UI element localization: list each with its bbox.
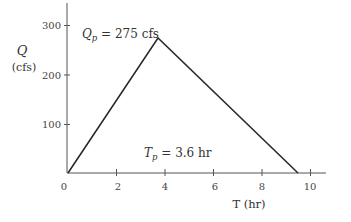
y-tick-label: 200: [42, 70, 61, 81]
y-tick-label: 100: [42, 119, 61, 130]
time-to-peak-annotation: Tp = 3.6 hr: [144, 146, 212, 162]
hydrograph-chart: 100 200 300 0 2 4 6 8 10 Q (cfs) T (hr) …: [0, 0, 351, 222]
x-ticks: 0 2 4 6 8 10: [61, 169, 317, 192]
peak-flow-annotation: Qp = 275 cfs: [82, 27, 159, 43]
y-axis-label-symbol: Q: [17, 43, 28, 58]
x-tick-label: 6: [212, 181, 218, 192]
x-tick-label: 2: [115, 181, 121, 192]
x-tick-label: 10: [304, 181, 317, 192]
x-axis-label: T (hr): [232, 197, 265, 211]
x-tick-label: 8: [259, 181, 265, 192]
x-tick-label: 4: [162, 181, 168, 192]
y-ticks: 100 200 300: [42, 20, 70, 130]
x-tick-label: 0: [61, 181, 67, 192]
y-axis-label-unit: (cfs): [12, 61, 36, 74]
y-tick-label: 300: [42, 20, 61, 31]
